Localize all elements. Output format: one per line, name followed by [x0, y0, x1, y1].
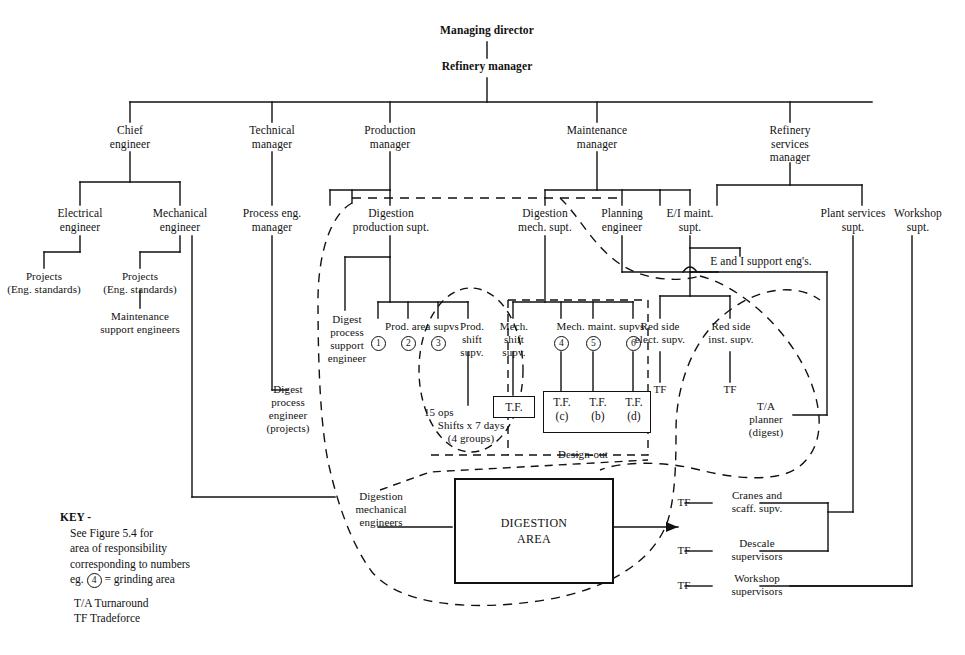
node-digestion-production-supt: Digestion production supt. [332, 207, 450, 234]
key-legend: KEY - See Figure 5.4 for area of respons… [60, 510, 190, 627]
digestion-area-line2: AREA [501, 531, 568, 547]
key-line-4: eg. 4 = grinding area [60, 572, 190, 588]
node-chief-engineer: Chief engineer [80, 124, 180, 151]
node-e-and-i-support-engs: E and I support eng's. [686, 255, 836, 269]
circle-number-1: 1 [371, 336, 386, 351]
circle-number-4: 4 [554, 336, 569, 351]
circle-number-5: 5 [586, 336, 601, 351]
label-tf-red-side-inst: TF [710, 383, 750, 396]
node-mechanical-engineer: Mechanical engineer [130, 207, 230, 234]
node-projects-electrical: Projects (Eng. standards) [0, 270, 94, 296]
tf-group-2-bottom: (d) [618, 409, 650, 423]
node-refinery-manager: Refinery manager [417, 60, 557, 74]
node-ta-planner: T/A planner (digest) [730, 400, 802, 439]
node-projects-mechanical: Projects (Eng. standards) [90, 270, 190, 296]
key-line-2: area of responsibility [60, 541, 190, 557]
tf-group-0-bottom: (c) [546, 409, 578, 423]
node-cranes-and-scaff-supv: Cranes and scaff. supv. [712, 489, 802, 515]
tf-group-1-bottom: (b) [582, 409, 614, 423]
flow-arrowheads [666, 522, 678, 532]
digestion-area-line1: DIGESTION [501, 515, 568, 531]
digestion-area-box: DIGESTION AREA [454, 478, 614, 584]
key-line-1: See Figure 5.4 for [60, 526, 190, 542]
node-maintenance-support-engineers: Maintenance support engineers [72, 310, 208, 336]
key-ta-line: T/A Turnaround [60, 596, 190, 612]
node-process-eng-manager: Process eng. manager [222, 207, 322, 234]
node-maintenance-manager: Maintenance manager [547, 124, 647, 151]
badge-prod-area-2: 2 [401, 336, 415, 351]
node-workshop-supt: Workshop supt. [876, 207, 960, 234]
label-design-out: Design-out [538, 448, 628, 461]
badge-mech-maint-4: 4 [554, 336, 568, 351]
tf-box-mech-shift: T.F. [493, 396, 535, 418]
badge-mech-maint-5: 5 [586, 336, 600, 351]
org-chart-figure: Managing director Refinery manager Chief… [0, 0, 965, 655]
tf-group-0-top: T.F. [546, 395, 578, 409]
tf-group-1-top: T.F. [582, 395, 614, 409]
label-tf-red-side-elect: TF [640, 383, 680, 396]
label-tf-descale: TF [664, 544, 704, 557]
node-red-side-elect-supv: Red side elect. supv. [620, 320, 700, 346]
label-tf-workshop: TF [664, 579, 704, 592]
node-digestion-mech-engineers: Digestion mechanical engineers [335, 490, 427, 529]
node-prod-shift-supv: Prod. shift supv. [448, 320, 496, 359]
node-technical-manager: Technical manager [222, 124, 322, 151]
tf-box-group: T.F. (c) T.F. (b) T.F. (d) [543, 391, 651, 433]
node-ei-maint-supt: E/I maint. supt. [650, 207, 730, 234]
circle-number-2: 2 [401, 336, 416, 351]
node-refinery-services-manager: Refinery services manager [740, 124, 840, 165]
badge-prod-area-3: 3 [431, 336, 445, 351]
key-eg-prefix: eg. [70, 573, 84, 585]
node-red-side-inst-supv: Red side inst. supv. [692, 320, 770, 346]
node-digest-process-engineer-projects: Digest process engineer (projects) [245, 383, 331, 435]
label-tf-cranes: TF [664, 496, 704, 509]
badge-prod-area-1: 1 [371, 336, 385, 351]
node-electrical-engineer: Electrical engineer [30, 207, 130, 234]
node-descale-supervisors: Descale supervisors [712, 537, 802, 563]
key-title: KEY - [60, 510, 190, 526]
node-workshop-supervisors: Workshop supervisors [712, 572, 802, 598]
tf-group-2-top: T.F. [618, 395, 650, 409]
node-managing-director: Managing director [417, 24, 557, 38]
key-line-3: corresponding to numbers [60, 557, 190, 573]
node-production-manager: Production manager [340, 124, 440, 151]
circle-number-4-key: 4 [87, 573, 102, 588]
key-tf-line: TF Tradeforce [60, 611, 190, 627]
circle-number-3: 3 [431, 336, 446, 351]
key-eg-suffix: = grinding area [104, 573, 174, 585]
node-mech-shift-supv: Mech. shift supv. [490, 320, 538, 359]
